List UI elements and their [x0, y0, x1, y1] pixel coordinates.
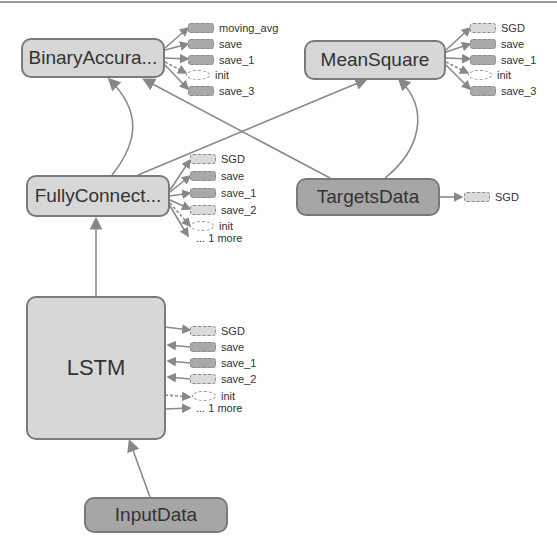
aux-node-more[interactable]: ... 1 more [194, 232, 242, 244]
aux-label: init [219, 220, 233, 232]
aux-node[interactable]: save_2 [190, 373, 256, 385]
aux-shape [470, 23, 496, 33]
aux-shape [188, 55, 214, 65]
aux-node[interactable]: save_2 [190, 204, 256, 216]
aux-label: SGD [501, 22, 525, 34]
aux-label: save_3 [501, 85, 536, 97]
aux-label: moving_avg [219, 22, 278, 34]
aux-node[interactable]: init [190, 220, 233, 232]
aux-label: save [501, 38, 524, 50]
aux-shape [190, 342, 216, 352]
aux-node[interactable]: init [186, 69, 229, 81]
aux-shape [190, 326, 216, 336]
aux-node[interactable]: save [190, 341, 244, 353]
aux-label: save [221, 341, 244, 353]
aux-node[interactable]: SGD [470, 22, 525, 34]
aux-node[interactable]: moving_avg [188, 22, 278, 34]
node-binary-accuracy[interactable]: BinaryAccura... [21, 38, 165, 78]
aux-node-more[interactable]: ... 1 more [194, 402, 242, 414]
aux-node[interactable]: save_3 [470, 85, 536, 97]
aux-shape [190, 205, 216, 215]
aux-shape [190, 221, 214, 231]
aux-shape [464, 192, 490, 202]
aux-label: init [221, 390, 235, 402]
aux-label: save_1 [221, 187, 256, 199]
aux-label: SGD [221, 153, 245, 165]
node-lstm[interactable]: LSTM [26, 296, 166, 440]
aux-shape [470, 55, 496, 65]
node-targets-data[interactable]: TargetsData [296, 178, 440, 216]
aux-label: save_2 [221, 204, 256, 216]
aux-label: save_1 [501, 54, 536, 66]
aux-shape [468, 70, 492, 80]
aux-shape [190, 154, 216, 164]
aux-node[interactable]: save_1 [188, 54, 254, 66]
aux-shape [188, 23, 214, 33]
aux-label: ... 1 more [196, 232, 242, 244]
aux-label: init [215, 69, 229, 81]
aux-node[interactable]: SGD [464, 191, 519, 203]
aux-node[interactable]: init [468, 69, 511, 81]
aux-node[interactable]: save_1 [190, 187, 256, 199]
aux-label: save_1 [219, 54, 254, 66]
aux-label: save_3 [219, 85, 254, 97]
aux-label: SGD [221, 325, 245, 337]
aux-label: SGD [495, 191, 519, 203]
node-mean-square[interactable]: MeanSquare [304, 40, 446, 80]
aux-shape [190, 171, 216, 181]
aux-shape [188, 39, 214, 49]
aux-shape [190, 358, 216, 368]
aux-node[interactable]: save_1 [190, 357, 256, 369]
aux-node[interactable]: init [192, 390, 235, 402]
aux-label: init [497, 69, 511, 81]
aux-node[interactable]: SGD [190, 153, 245, 165]
aux-node[interactable]: save [190, 170, 244, 182]
aux-node[interactable]: SGD [190, 325, 245, 337]
aux-node[interactable]: save_1 [470, 54, 536, 66]
aux-shape [190, 188, 216, 198]
aux-node[interactable]: save_3 [188, 85, 254, 97]
aux-shape [190, 374, 216, 384]
aux-shape [186, 70, 210, 80]
aux-label: save [219, 38, 242, 50]
aux-node[interactable]: save [470, 38, 524, 50]
aux-shape [188, 86, 214, 96]
node-input-data[interactable]: InputData [84, 497, 228, 533]
aux-node[interactable]: save [188, 38, 242, 50]
graph-edges [0, 0, 557, 547]
node-fully-connected[interactable]: FullyConnect... [26, 175, 170, 217]
aux-label: save_2 [221, 373, 256, 385]
aux-label: save_1 [221, 357, 256, 369]
aux-label: ... 1 more [196, 402, 242, 414]
aux-shape [470, 86, 496, 96]
aux-label: save [221, 170, 244, 182]
aux-shape [470, 39, 496, 49]
aux-shape [192, 391, 216, 401]
